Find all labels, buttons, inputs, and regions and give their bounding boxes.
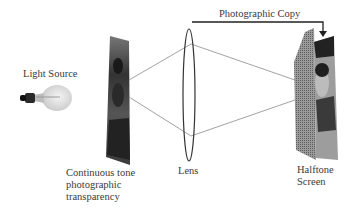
light-source-label: Light Source	[23, 68, 78, 80]
transparency-label-line2: photographic	[66, 179, 121, 191]
transparency-image	[106, 36, 130, 165]
transparency-label-line3: transparency	[66, 191, 120, 203]
halftone-label-line2: Screen	[297, 176, 326, 188]
lens-shape	[183, 29, 195, 161]
transparency-label-line1: Continuous tone	[66, 167, 135, 179]
lens-label: Lens	[178, 165, 198, 177]
halftone-label-line1: Halftone	[297, 164, 334, 176]
light-rays	[129, 44, 318, 136]
halftone-screen-image	[294, 28, 338, 160]
light-bulb-icon	[20, 85, 72, 111]
photographic-copy-label: Photographic Copy	[219, 8, 300, 20]
